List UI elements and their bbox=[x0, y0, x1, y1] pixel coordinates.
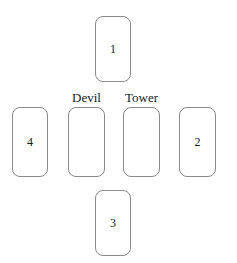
card-slot-devil[interactable] bbox=[68, 107, 105, 177]
card-slot-2[interactable]: 2 bbox=[179, 107, 216, 177]
card-slot-4[interactable]: 4 bbox=[12, 107, 48, 177]
card-slot-tower[interactable] bbox=[123, 107, 160, 177]
card-number-2: 2 bbox=[195, 136, 201, 148]
card-number-1: 1 bbox=[110, 43, 116, 55]
tarot-spread-diagram: 1 Devil Tower 4 2 3 bbox=[0, 0, 237, 263]
card-slot-3[interactable]: 3 bbox=[95, 190, 131, 256]
card-label-tower: Tower bbox=[121, 91, 162, 104]
card-label-devil: Devil bbox=[68, 91, 105, 104]
card-number-3: 3 bbox=[110, 217, 116, 229]
card-slot-1[interactable]: 1 bbox=[95, 16, 131, 82]
card-number-4: 4 bbox=[27, 136, 33, 148]
